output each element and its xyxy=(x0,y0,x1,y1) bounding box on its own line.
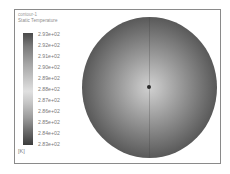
colorbar-tick: 2.85e+02 xyxy=(38,119,60,125)
contour-variable: Static Temperature xyxy=(18,18,58,23)
contour-title: contour-1 xyxy=(18,12,37,17)
colorbar-tick: 2.90e+02 xyxy=(38,64,60,70)
colorbar-tick: 2.83e+02 xyxy=(38,141,60,147)
colorbar-tick: 2.91e+02 xyxy=(38,53,60,59)
colorbar-tick: 2.93e+02 xyxy=(38,31,60,37)
colorbar-tick: 2.87e+02 xyxy=(38,97,60,103)
center-marker xyxy=(147,85,151,89)
colorbar-tick: 2.86e+02 xyxy=(38,108,60,114)
unit-label: [K] xyxy=(18,148,25,154)
colorbar xyxy=(23,33,33,145)
colorbar-tick: 2.84e+02 xyxy=(38,130,60,136)
colorbar-tick: 2.89e+02 xyxy=(38,75,60,81)
colorbar-tick: 2.92e+02 xyxy=(38,42,60,48)
colorbar-tick: 2.88e+02 xyxy=(38,86,60,92)
